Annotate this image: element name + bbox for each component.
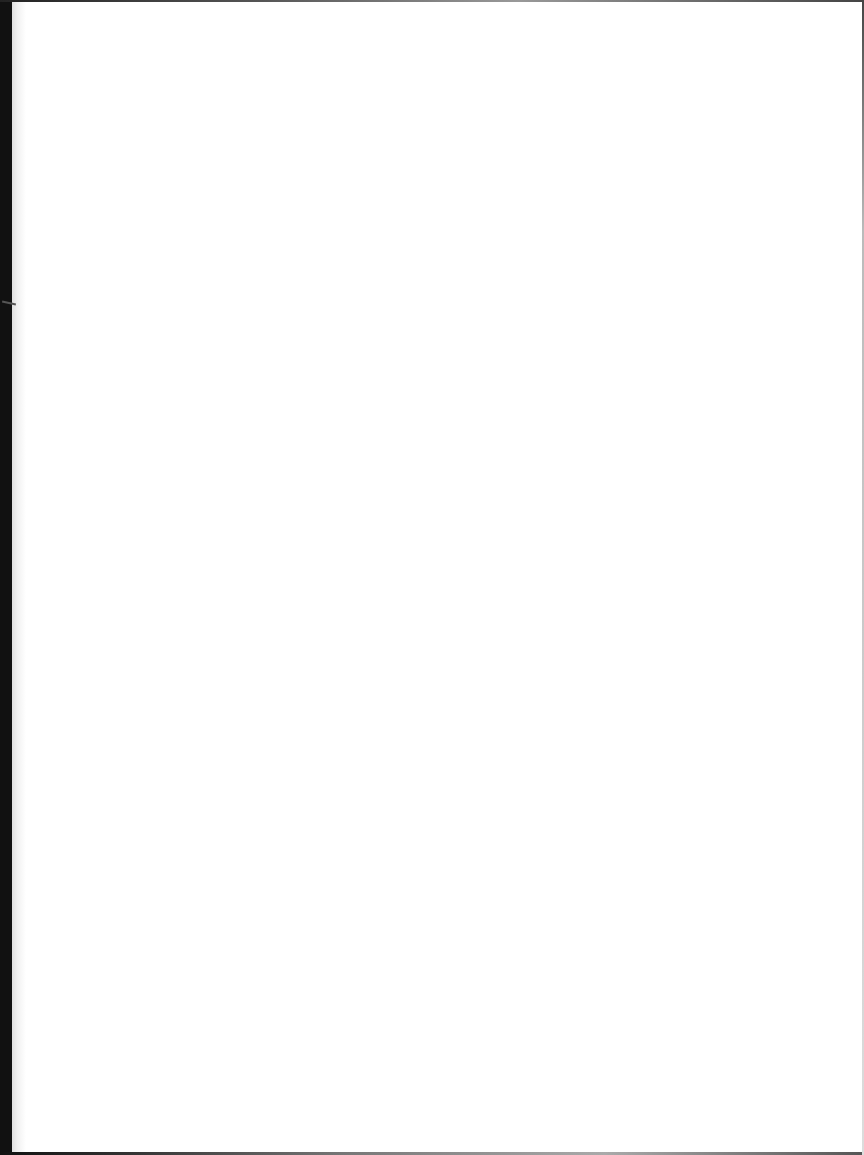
top-scan-border (0, 0, 864, 2)
scanned-page (0, 0, 864, 1155)
left-edge-shadow (12, 0, 26, 1155)
left-scan-border (0, 0, 12, 1155)
